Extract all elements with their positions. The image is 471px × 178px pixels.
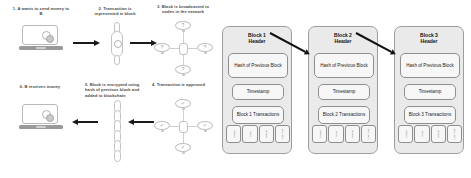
node-status-mark: ✓ [154,122,170,129]
chain-link-icon [114,55,120,65]
tx-field: Sender [312,125,327,143]
tx-field: Output [431,125,446,143]
node-status-mark: ✓ [175,100,191,107]
step-6-caption: 6. B receives money [10,84,70,89]
network-node: ? [197,43,213,54]
step-1: 1. A wants to send money to B [12,6,70,17]
coin-icon [46,114,54,122]
block-3-hash-of-previous: Hash of Previous Block [400,53,460,78]
step-2-block-link [108,22,126,66]
node-status-mark: ✓ [175,144,191,151]
node-status-mark: ? [175,22,191,29]
block-1-timestamp: Timestamp [232,84,284,100]
step-3-node-network: ? ? ? ? [153,20,215,78]
block-2: Block 2 Header Hash of Previous Block Ti… [308,26,378,154]
coin-icon [46,35,54,43]
network-spoke [187,48,197,49]
block-3: Block 3 Header Hash of Previous Block Ti… [394,26,464,154]
step-5-blockchain [110,100,124,162]
step-5-caption: 5. Block is encrypted using hash of prev… [85,82,147,98]
laptop-notch [36,126,46,128]
step-1-laptop [19,25,63,53]
tx-field: Sender [226,125,241,143]
node-status-mark: ? [154,44,170,51]
network-node: ? [175,21,191,32]
block-3-transaction-fields: Sender Input Output Last Time [398,125,462,143]
block-2-timestamp: Timestamp [318,84,370,100]
network-node: ✓ [154,121,170,132]
coin-icon [114,40,122,48]
tx-field: Output [259,125,274,143]
network-node: ✓ [175,99,191,110]
laptop-with-coins-icon [19,25,63,53]
step-4-node-network: ✓ ✓ ✓ ✓ [153,98,215,156]
block-2-transaction-fields: Sender Input Output Last Time [312,125,376,143]
tx-field: Output [345,125,360,143]
network-node: ? [154,43,170,54]
tx-field: Last Time [447,125,462,143]
block-1-transactions: Block 1 Transactions [232,106,284,124]
step-6: 6. B receives money [10,84,70,89]
step-3: 3. Block is broadcasted to nodes in the … [152,4,214,15]
network-node: ? [175,65,191,76]
transaction-flow-panel: 1. A wants to send money to B 2. Transac… [0,0,216,178]
node-status-mark: ✓ [197,122,213,129]
block-1: Block 1 Header Hash of Previous Block Ti… [222,26,292,154]
laptop-notch [36,47,46,49]
block-2-hash-of-previous: Hash of Previous Block [314,53,374,78]
block-3-header: Block 3 Header [395,32,463,44]
step-2-caption: 2. Transaction is represented in block [88,6,142,17]
tx-field: Input [328,125,343,143]
block-1-transaction-fields: Sender Hash Output Last Time [226,125,290,143]
blockchain-structure-panel: Block 1 Header Hash of Previous Block Ti… [222,16,468,166]
step-1-caption: 1. A wants to send money to B [12,6,70,17]
step-5: 5. Block is encrypted using hash of prev… [85,82,147,98]
tx-field: Input [414,125,429,143]
step-6-laptop [19,104,63,132]
approved-block-icon [179,121,188,133]
step-4: 4. Transaction is approved [152,82,212,87]
step-2: 2. Transaction is represented in block [88,6,142,17]
step-3-caption: 3. Block is broadcasted to nodes in the … [152,4,214,15]
node-status-mark: ? [175,66,191,73]
blockchain-infographic: 1. A wants to send money to B 2. Transac… [0,0,471,178]
step-4-caption: 4. Transaction is approved [152,82,212,87]
block-1-hash-of-previous: Hash of Previous Block [228,53,288,78]
tx-field: Last Time [275,125,290,143]
tx-field: Last Time [361,125,376,143]
network-node: ✓ [197,121,213,132]
block-3-timestamp: Timestamp [404,84,456,100]
block-3-transactions: Block 3 Transactions [404,106,456,124]
chain-link-icon [114,150,121,162]
block-2-transactions: Block 2 Transactions [318,106,370,124]
tx-field: Sender [398,125,413,143]
node-status-mark: ? [197,44,213,51]
network-spoke [187,126,197,127]
network-node: ✓ [175,143,191,154]
tx-field: Hash [242,125,257,143]
broadcast-block-icon [179,43,188,55]
laptop-with-coins-icon [19,104,63,132]
